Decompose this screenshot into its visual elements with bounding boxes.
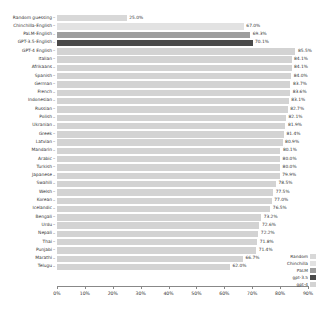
bar [57, 198, 272, 204]
bar-row: Japanese–79.9% [57, 172, 308, 180]
bar [57, 222, 259, 228]
bar [57, 15, 127, 21]
bar-row: PaLM-English–69.3% [57, 31, 308, 39]
bar-row: Arabic–80.0% [57, 155, 308, 163]
bar [57, 23, 244, 29]
bar-value-label: 84.1% [292, 55, 308, 63]
bar-category-label: Korean [37, 196, 52, 204]
bar [57, 40, 253, 46]
bar-value-label: 76.5% [270, 204, 286, 212]
bar-row: Ukranian–81.9% [57, 122, 308, 130]
bar-row: Marathi–66.7% [57, 255, 308, 263]
bar-value-label: 83.6% [290, 88, 306, 96]
legend-color-swatch [310, 275, 316, 281]
bar-category-label: Polish [39, 113, 52, 121]
bar-category-label: Telugu [38, 262, 52, 270]
bar [57, 106, 288, 112]
bar-value-label: 80.9% [283, 138, 299, 146]
y-axis-tick: – [53, 155, 56, 163]
chart-legend: RandomChinchillaPaLMgpt-3.5gpt-4 [287, 253, 316, 288]
y-axis-tick: – [53, 55, 56, 63]
bar [57, 189, 273, 195]
bar-value-label: 69.3% [250, 30, 266, 38]
bar-value-label: 85.5% [295, 47, 311, 55]
bar-row: Italian–84.1% [57, 55, 308, 63]
bar [57, 239, 257, 245]
bar-value-label: 80.0% [280, 163, 296, 171]
bar-category-label: Random guessing [13, 14, 52, 22]
y-axis-tick: – [53, 130, 56, 138]
bar-value-label: 71.8% [257, 238, 273, 246]
legend-item: gpt-3.5 [292, 274, 316, 281]
bar-category-label: Ukranian [32, 121, 52, 129]
bar-value-label: 77.5% [273, 188, 289, 196]
bar-value-label: 62.0% [230, 262, 246, 270]
bar-value-label: 80.1% [280, 146, 296, 154]
y-axis-tick: – [53, 80, 56, 88]
bar-category-label: Punjabi [36, 246, 52, 254]
bar [57, 206, 270, 212]
legend-item-label: gpt-4 [297, 282, 308, 287]
bar-row: Russian–82.7% [57, 105, 308, 113]
bar-value-label: 77.0% [272, 196, 288, 204]
y-axis-tick: – [53, 47, 56, 55]
y-axis-tick: – [53, 238, 56, 246]
bar-category-label: Turkish [37, 163, 52, 171]
bar-row: Welsh–77.5% [57, 188, 308, 196]
y-axis-tick: – [53, 213, 56, 221]
y-axis-tick: – [53, 22, 56, 30]
bar-row: Punjabi–71.4% [57, 246, 308, 254]
bar-category-label: Spanish [35, 72, 52, 80]
bar-row: Chinchilla-English–67.0% [57, 22, 308, 30]
y-axis-tick: – [53, 105, 56, 113]
bar-row: French–83.6% [57, 89, 308, 97]
bar-category-label: Welsh [39, 188, 52, 196]
legend-item: Random [290, 253, 316, 260]
bar-category-label: Nepali [38, 229, 52, 237]
x-axis-tick [85, 286, 86, 289]
y-axis-tick: – [53, 39, 56, 47]
y-axis-tick: – [53, 147, 56, 155]
bar-row: Spanish–84.0% [57, 72, 308, 80]
legend-color-swatch [310, 261, 316, 267]
y-axis-tick: – [53, 255, 56, 263]
y-axis-tick: – [53, 197, 56, 205]
y-axis-tick: – [53, 89, 56, 97]
bar [57, 264, 230, 270]
legend-color-swatch [310, 282, 316, 288]
bar-value-label: 67.0% [244, 22, 260, 30]
bar-value-label: 82.1% [286, 113, 302, 121]
bar-row: Latvian–80.9% [57, 138, 308, 146]
x-axis-tick-label: 30% [136, 291, 146, 296]
bar-category-label: Icelandic [32, 204, 52, 212]
bar [57, 32, 250, 38]
bar [57, 256, 243, 262]
x-axis-tick [280, 286, 281, 289]
bar-row: Afrikaans–84.1% [57, 64, 308, 72]
y-axis-tick: – [53, 64, 56, 72]
bar-row: German–83.7% [57, 80, 308, 88]
bar [57, 81, 290, 87]
bar-category-label: Thai [43, 238, 52, 246]
bar [57, 48, 295, 54]
bar-category-label: Japanese [32, 171, 52, 179]
bar-value-label: 83.1% [289, 96, 305, 104]
bar [57, 123, 285, 129]
bar-category-label: Italian [38, 55, 52, 63]
bar-category-label: German [34, 80, 52, 88]
y-axis-tick: – [53, 72, 56, 80]
x-axis-tick-label: 50% [191, 291, 201, 296]
y-axis-tick: – [53, 172, 56, 180]
bar [57, 148, 280, 154]
bar-category-label: GPT-3.5-English [18, 38, 52, 46]
x-axis-tick [57, 286, 58, 289]
bar-category-label: PaLM-English [23, 30, 52, 38]
bar-value-label: 79.9% [280, 171, 296, 179]
y-axis-tick: – [53, 97, 56, 105]
y-axis-tick: – [53, 138, 56, 146]
bar-row: Turkish–80.0% [57, 163, 308, 171]
x-axis-tick-label: 90% [303, 291, 313, 296]
bar-category-label: Latvian [36, 138, 52, 146]
bar-row: GPT-3.5-English–70.1% [57, 39, 308, 47]
bar [57, 65, 292, 71]
